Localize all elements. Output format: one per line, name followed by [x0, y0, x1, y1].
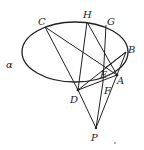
- label-E: E: [99, 69, 108, 80]
- point-D: [77, 89, 80, 92]
- segment-DP: [78, 90, 96, 128]
- segment-PA: [96, 75, 117, 128]
- label-B: B: [127, 44, 135, 55]
- segments: [45, 22, 126, 128]
- label-A: A: [116, 75, 124, 86]
- segment-HD: [78, 22, 87, 90]
- label-C: C: [38, 16, 46, 27]
- geometry-diagram: α C H G B E A F D P: [0, 0, 144, 150]
- label-D: D: [69, 94, 78, 105]
- label-P: P: [90, 132, 98, 143]
- label-alpha: α: [6, 59, 13, 70]
- segment-HA: [87, 22, 117, 75]
- segment-DA: [78, 75, 117, 90]
- label-H: H: [82, 9, 92, 20]
- label-G: G: [107, 16, 115, 27]
- segment-PF: [96, 82, 103, 128]
- point-P: [95, 127, 97, 129]
- plane-ellipse: [22, 22, 128, 82]
- stray-dot: [114, 142, 115, 143]
- label-F: F: [103, 85, 112, 96]
